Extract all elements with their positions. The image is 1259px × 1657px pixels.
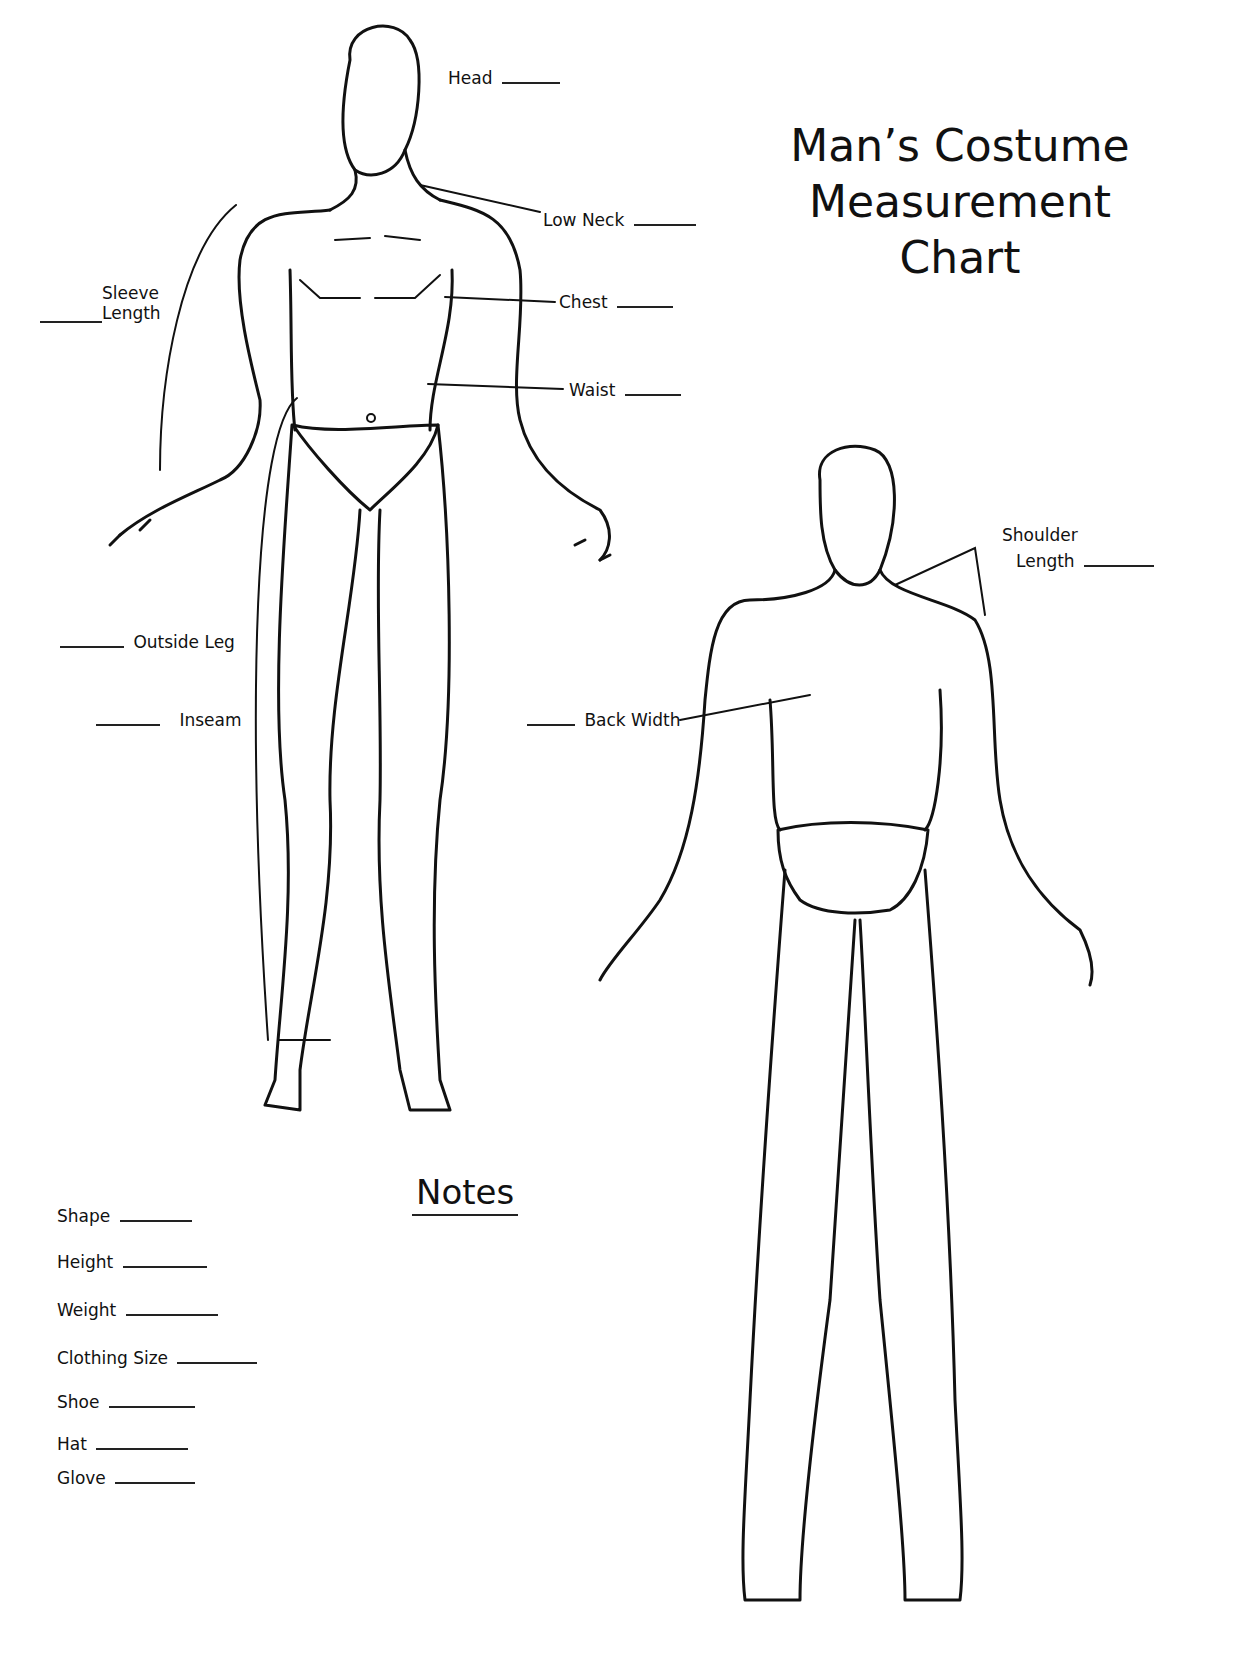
shape-field: Shape [57,1206,196,1226]
back-width-blank[interactable] [527,724,575,726]
inseam-field: Inseam [96,710,242,730]
outside-leg-field: Outside Leg [60,632,235,652]
head-field: Head [448,68,564,88]
front-figure [110,26,610,1110]
notes-title: Notes [412,1172,518,1216]
hat-label: Hat [57,1434,87,1454]
sleeve-length-label-line-2: Length [102,303,161,323]
back-figure [600,446,1092,1600]
height-label: Height [57,1252,113,1272]
sleeve-length-blank[interactable] [40,321,102,323]
outside-leg-blank[interactable] [60,646,124,648]
low-neck-field: Low Neck [543,210,700,230]
chart-title: Man’s Costume Measurement Chart [770,118,1150,286]
title-line-2: Measurement [770,174,1150,230]
title-line-3: Chart [770,230,1150,286]
weight-field: Weight [57,1300,222,1320]
inseam-label: Inseam [179,710,241,730]
inseam-blank[interactable] [96,724,160,726]
height-field: Height [57,1252,211,1272]
clothing-size-field: Clothing Size [57,1348,261,1368]
height-blank[interactable] [123,1266,207,1268]
outside-leg-label: Outside Leg [133,632,234,652]
shoe-blank[interactable] [109,1406,195,1408]
chest-label: Chest [559,292,608,312]
hat-field: Hat [57,1434,192,1454]
shoulder-length-field: Shoulder Length [1002,525,1252,575]
shoe-field: Shoe [57,1392,199,1412]
waist-field: Waist [569,380,685,400]
shoulder-length-label-line-1: Shoulder [1002,525,1078,545]
head-label: Head [448,68,492,88]
hat-blank[interactable] [96,1448,188,1450]
shape-blank[interactable] [120,1220,192,1222]
chest-blank[interactable] [617,306,673,308]
low-neck-blank[interactable] [634,224,696,226]
shoulder-length-line-2: Length [1016,551,1158,571]
shoulder-length-label-line-2: Length [1016,551,1075,571]
glove-field: Glove [57,1468,199,1488]
clothing-size-label: Clothing Size [57,1348,168,1368]
waist-blank[interactable] [625,394,681,396]
title-line-1: Man’s Costume [770,118,1150,174]
glove-label: Glove [57,1468,106,1488]
low-neck-label: Low Neck [543,210,624,230]
shoulder-length-blank[interactable] [1084,565,1154,567]
glove-blank[interactable] [115,1482,195,1484]
head-blank[interactable] [502,82,560,84]
weight-label: Weight [57,1300,116,1320]
shape-label: Shape [57,1206,110,1226]
shoe-label: Shoe [57,1392,99,1412]
back-width-field: Back Width [527,710,680,730]
sleeve-length-label-line-1: Sleeve [102,283,159,303]
chest-field: Chest [559,292,677,312]
weight-blank[interactable] [126,1314,218,1316]
clothing-size-blank[interactable] [177,1362,257,1364]
waist-label: Waist [569,380,615,400]
back-width-label: Back Width [584,710,680,730]
